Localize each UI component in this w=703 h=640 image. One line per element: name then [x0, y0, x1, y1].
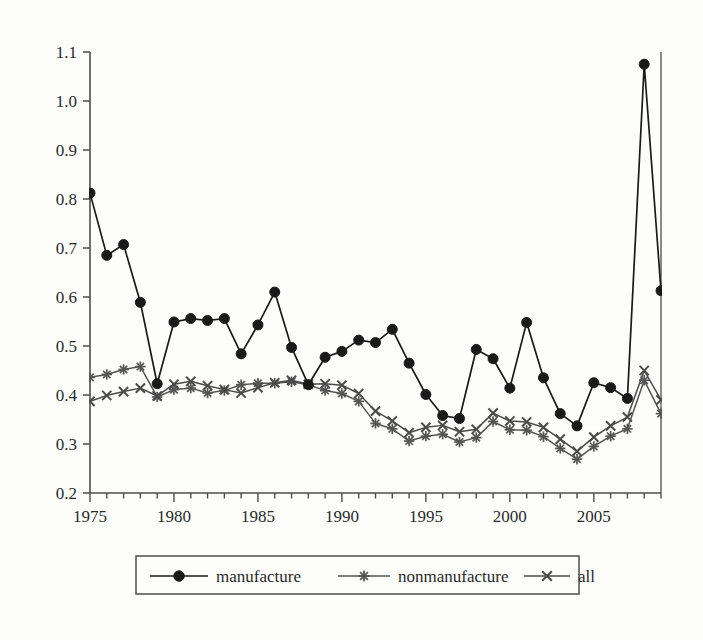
y-tick-label: 0.5 — [56, 337, 77, 356]
data-point-circle — [555, 409, 565, 419]
data-point-circle — [169, 317, 179, 327]
y-tick-label: 0.7 — [56, 239, 78, 258]
series-manufacture — [85, 59, 666, 431]
data-point-circle — [102, 250, 112, 260]
x-tick-label: 1990 — [325, 507, 359, 526]
x-tick-label: 1985 — [241, 507, 275, 526]
data-point-circle — [270, 287, 280, 297]
series-all — [85, 366, 665, 456]
data-point-circle — [219, 314, 229, 324]
data-point-circle — [387, 324, 397, 334]
data-point-circle — [85, 188, 95, 198]
data-point-circle — [522, 317, 532, 327]
data-point-circle — [454, 414, 464, 424]
x-tick-label: 2005 — [577, 507, 611, 526]
y-tick-label: 0.8 — [56, 190, 77, 209]
data-point-circle — [538, 373, 548, 383]
series-line — [90, 64, 661, 426]
y-axis-ticks: 0.20.30.40.50.60.70.80.91.01.1 — [56, 43, 90, 503]
data-point-circle — [639, 59, 649, 69]
data-point-circle — [337, 346, 347, 356]
data-point-circle — [303, 380, 313, 390]
chart-canvas: 0.20.30.40.50.60.70.80.91.01.11975198019… — [0, 0, 703, 640]
data-point-circle — [404, 358, 414, 368]
data-point-circle — [253, 320, 263, 330]
data-point-circle — [152, 379, 162, 389]
data-point-circle — [488, 354, 498, 364]
data-point-circle — [119, 240, 129, 250]
data-point-circle — [589, 378, 599, 388]
x-tick-label: 1980 — [157, 507, 191, 526]
data-point-circle — [622, 393, 632, 403]
y-tick-label: 1.1 — [56, 43, 77, 62]
data-point-circle — [371, 338, 381, 348]
chart-page: 0.20.30.40.50.60.70.80.91.01.11975198019… — [0, 0, 703, 640]
y-tick-label: 1.0 — [56, 92, 77, 111]
y-tick-label: 0.6 — [56, 288, 77, 307]
series-line — [90, 367, 661, 460]
legend-label: nonmanufacture — [398, 567, 508, 586]
data-point-circle — [186, 314, 196, 324]
data-point-circle — [135, 297, 145, 307]
y-tick-label: 0.3 — [56, 435, 77, 454]
data-point-circle — [572, 421, 582, 431]
chart-legend: manufacturenonmanufactureall — [136, 556, 595, 594]
y-tick-label: 0.4 — [56, 386, 78, 405]
data-point-circle — [421, 390, 431, 400]
data-point-circle — [174, 571, 185, 582]
data-point-circle — [438, 411, 448, 421]
data-point-circle — [287, 342, 297, 352]
data-point-circle — [236, 349, 246, 359]
data-point-circle — [656, 286, 666, 296]
data-point-circle — [505, 383, 515, 393]
data-point-circle — [606, 383, 616, 393]
legend-label: manufacture — [216, 567, 301, 586]
x-axis-ticks: 1975198019851990199520002005 — [73, 493, 661, 526]
y-tick-label: 0.2 — [56, 484, 77, 503]
line-chart: 0.20.30.40.50.60.70.80.91.01.11975198019… — [0, 0, 703, 640]
data-point-circle — [354, 335, 364, 345]
data-point-circle — [320, 352, 330, 362]
data-point-circle — [203, 316, 213, 326]
x-tick-label: 2000 — [493, 507, 527, 526]
legend-box — [136, 556, 579, 594]
x-tick-label: 1975 — [73, 507, 107, 526]
y-tick-label: 0.9 — [56, 141, 77, 160]
legend-label: all — [578, 567, 595, 586]
data-point-circle — [471, 344, 481, 354]
x-tick-label: 1995 — [409, 507, 443, 526]
